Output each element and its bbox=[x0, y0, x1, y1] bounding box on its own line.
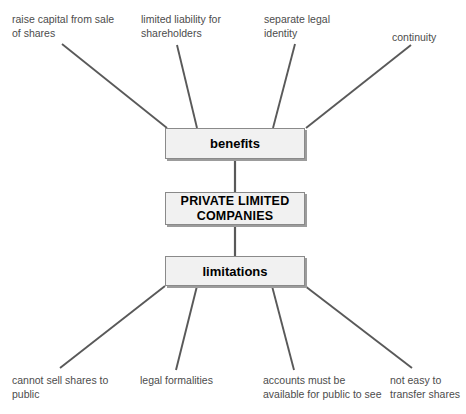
leaf-label-limitation-4: not easy to transfer shares bbox=[390, 374, 466, 401]
connector-benefit-2 bbox=[177, 45, 197, 128]
node-private-limited-companies[interactable]: PRIVATE LIMITED COMPANIES bbox=[165, 192, 305, 225]
leaf-label-limitation-2: legal formalities bbox=[140, 374, 256, 388]
connector-limitation-3 bbox=[272, 286, 294, 370]
connector-benefit-4 bbox=[306, 45, 411, 128]
connector-limitation-4 bbox=[305, 286, 412, 368]
node-limitations[interactable]: limitations bbox=[165, 256, 305, 286]
leaf-label-benefit-1: raise capital from sale of shares bbox=[12, 13, 134, 40]
connector-limitation-1 bbox=[60, 286, 165, 368]
connector-benefit-3 bbox=[273, 44, 295, 128]
leaf-label-benefit-2: limited liability for shareholders bbox=[141, 13, 253, 40]
leaf-label-benefit-4: continuity bbox=[392, 31, 464, 45]
diagram-canvas: raise capital from sale of shares limite… bbox=[0, 0, 466, 414]
connector-limitation-2 bbox=[176, 286, 197, 370]
connector-benefit-1 bbox=[62, 44, 167, 128]
leaf-label-limitation-1: cannot sell shares to public bbox=[12, 374, 138, 401]
leaf-label-limitation-3: accounts must be available for public to… bbox=[263, 374, 389, 401]
node-benefits[interactable]: benefits bbox=[165, 128, 305, 159]
leaf-label-benefit-3: separate legal identity bbox=[264, 13, 374, 40]
